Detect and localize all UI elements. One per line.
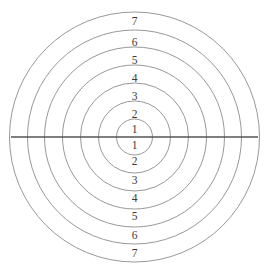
ring-label-above-4: 4 (132, 72, 138, 84)
ring-label-above-7: 7 (132, 15, 138, 27)
ring-label-below-2: 2 (132, 155, 138, 167)
ring-label-above-1: 1 (132, 123, 138, 135)
ring-label-below-6: 6 (132, 229, 138, 241)
target-canvas: 7654321 1234567 (0, 0, 270, 278)
ring-label-below-4: 4 (132, 192, 138, 204)
ring-label-below-7: 7 (132, 247, 138, 259)
concentric-ring-target-figure: 7654321 1234567 (0, 0, 270, 278)
ring-labels-above-group: 7654321 (132, 15, 138, 135)
ring-label-above-2: 2 (132, 108, 138, 120)
ring-label-below-3: 3 (132, 174, 138, 186)
ring-labels-below-group: 1234567 (132, 139, 138, 259)
ring-label-below-5: 5 (132, 210, 138, 222)
ring-label-above-6: 6 (132, 36, 138, 48)
ring-label-below-1: 1 (132, 139, 138, 151)
ring-label-above-3: 3 (132, 90, 138, 102)
ring-label-above-5: 5 (132, 54, 138, 66)
